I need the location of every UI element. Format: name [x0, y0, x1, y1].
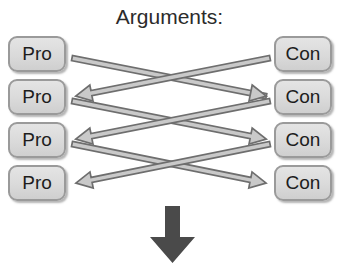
node-pro-4[interactable]: Pro — [8, 165, 66, 201]
node-con-1[interactable]: Con — [274, 36, 332, 72]
edge-con1-pro2 — [74, 50, 271, 104]
node-label: Pro — [22, 44, 52, 63]
node-label: Pro — [22, 130, 52, 149]
edge-pro1-con2 — [71, 55, 266, 98]
node-con-4[interactable]: Con — [274, 165, 332, 201]
node-con-3[interactable]: Con — [274, 122, 332, 158]
diagram-canvas: Arguments: — [0, 0, 339, 267]
node-label: Pro — [22, 87, 52, 106]
node-label: Con — [286, 87, 321, 106]
edge-pro2-con3 — [70, 93, 267, 147]
page-title: Arguments: — [0, 4, 339, 30]
node-pro-2[interactable]: Pro — [8, 79, 66, 115]
node-label: Con — [286, 44, 321, 63]
node-label: Pro — [22, 173, 52, 192]
node-label: Con — [286, 130, 321, 149]
edge-pro3-con4 — [70, 136, 267, 191]
down-arrow-icon — [145, 206, 200, 264]
edge-pro1-con2-head — [249, 85, 268, 104]
edge-con3-pro4 — [74, 136, 271, 191]
node-label: Con — [286, 173, 321, 192]
node-pro-3[interactable]: Pro — [8, 122, 66, 158]
node-pro-1[interactable]: Pro — [8, 36, 66, 72]
edge-con2-pro3 — [74, 93, 271, 147]
node-con-2[interactable]: Con — [274, 79, 332, 115]
